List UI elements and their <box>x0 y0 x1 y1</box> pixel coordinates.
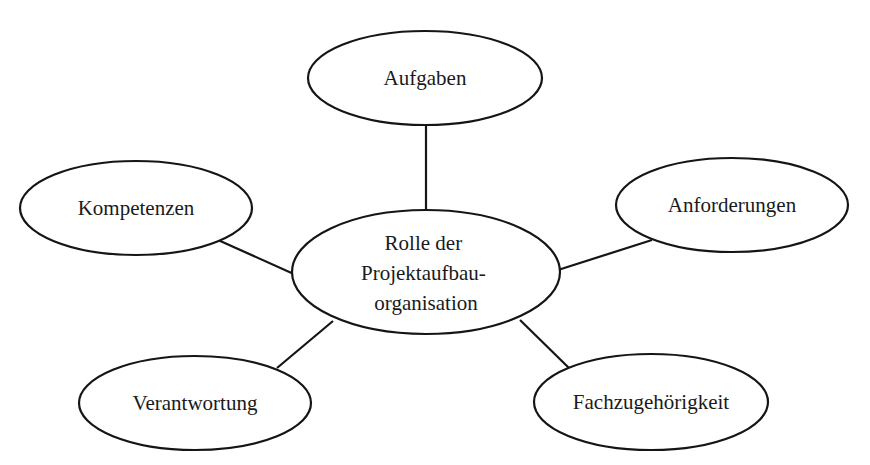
center-label-line-1: Rolle der <box>385 231 463 255</box>
center-node-rolle-der-projektaufbauorganisation: Rolle der Projektaufbau- organisation <box>292 210 560 334</box>
node-fachzugehoerigkeit: Fachzugehörigkeit <box>534 354 768 450</box>
node-label-fachzugehoerigkeit: Fachzugehörigkeit <box>573 390 729 414</box>
connector-line-kompetenzen <box>218 240 296 275</box>
node-aufgaben: Aufgaben <box>308 31 542 125</box>
connector-line-fachzugehoerigkeit <box>520 320 569 368</box>
connector-line-anforderungen <box>558 240 652 270</box>
center-label-line-2: Projektaufbau- <box>361 261 486 285</box>
node-label-anforderungen: Anforderungen <box>668 193 797 217</box>
connector-line-verantwortung <box>277 321 333 368</box>
role-mind-map-diagram: AufgabenKompetenzenAnforderungenVerantwo… <box>0 0 870 465</box>
node-label-aufgaben: Aufgaben <box>384 66 467 90</box>
node-anforderungen: Anforderungen <box>616 158 848 252</box>
node-verantwortung: Verantwortung <box>79 356 311 450</box>
node-kompetenzen: Kompetenzen <box>20 161 252 255</box>
node-label-kompetenzen: Kompetenzen <box>78 196 195 220</box>
node-label-verantwortung: Verantwortung <box>133 391 258 415</box>
center-label-line-3: organisation <box>374 291 478 315</box>
